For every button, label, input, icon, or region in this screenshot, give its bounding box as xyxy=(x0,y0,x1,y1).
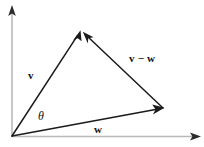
vector-v-shaft xyxy=(12,35,78,136)
vector-diagram-figure: v w v − w θ xyxy=(0,0,204,147)
vector-v-minus-w-arrowhead-icon xyxy=(83,32,94,44)
vector-w xyxy=(12,105,165,136)
vector-v xyxy=(12,30,82,136)
vector-v-minus-w xyxy=(83,32,163,108)
vector-v-arrowhead-icon xyxy=(73,30,81,41)
vector-v-minus-w-label: v − w xyxy=(129,53,155,64)
angle-theta-label: θ xyxy=(38,110,44,122)
vector-w-shaft xyxy=(12,110,156,137)
vector-w-label: w xyxy=(94,124,102,135)
vector-v-minus-w-shaft xyxy=(89,38,163,108)
vector-v-label: v xyxy=(28,70,34,81)
